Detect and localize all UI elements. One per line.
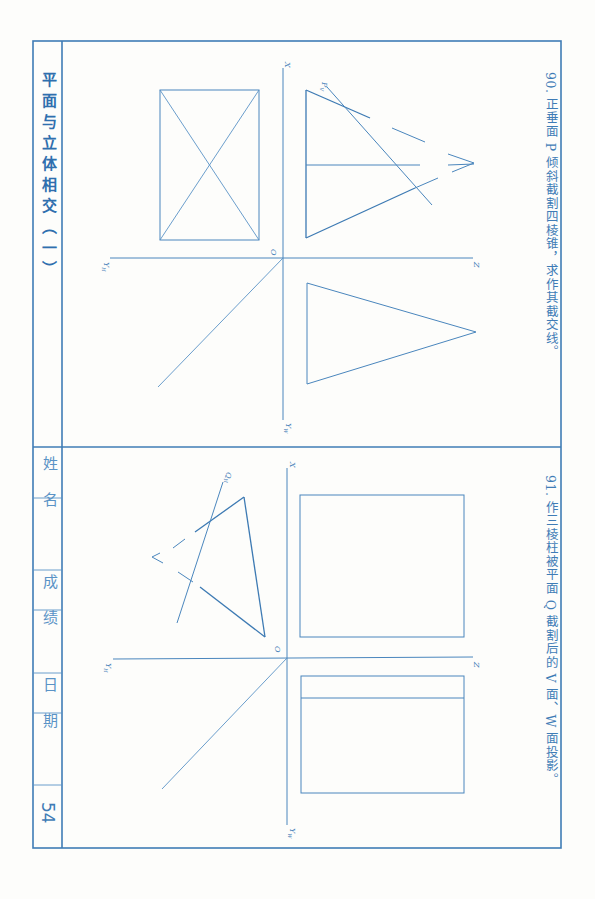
- svg-text:PV: PV: [319, 81, 329, 92]
- label-x: X: [283, 61, 292, 68]
- svg-text:YW: YW: [283, 423, 293, 434]
- svg-text:YH: YH: [103, 663, 113, 673]
- page-number: 54: [38, 802, 58, 824]
- plane-p-trace: [327, 87, 432, 205]
- label-z: Z: [472, 661, 481, 668]
- score-field[interactable]: [34, 611, 61, 672]
- problem-90-statement: 90. 正垂面 P 倾斜截割四棱锥，求作其截交线。: [541, 72, 560, 359]
- axis-45-degree: [158, 258, 283, 387]
- label-o: O: [273, 646, 282, 653]
- problem-91-drawing: X Z O YH YW QH: [103, 461, 481, 839]
- problem-91-statement: 91. 作三棱柱被平面 Q 截割后的 V 面、W 面投影。: [541, 475, 560, 786]
- sheet-title: 平面与立体相交（一）: [38, 72, 59, 282]
- label-yh: YH: [101, 262, 111, 272]
- label-qh: QH: [223, 472, 233, 484]
- svg-text:YW: YW: [287, 828, 297, 839]
- label-x: X: [288, 461, 297, 468]
- prism-w-view: [301, 676, 464, 793]
- pyramid-w-view: [307, 283, 476, 384]
- problem-90-drawing: X Z O YH YW PV: [101, 61, 481, 434]
- label-pv: PV: [319, 81, 329, 92]
- outer-border: [33, 41, 561, 848]
- label-o: O: [269, 249, 278, 256]
- label-yh: YH: [103, 663, 113, 673]
- prism-v-view: [300, 495, 464, 637]
- label-z: Z: [472, 261, 481, 268]
- label-yw: YW: [283, 423, 293, 434]
- label-yw: YW: [287, 828, 297, 839]
- axis-45-degree: [162, 658, 287, 789]
- date-field[interactable]: [34, 714, 61, 784]
- pyramid-h-view: [160, 90, 259, 240]
- plane-q-trace: [177, 482, 223, 623]
- prism-h-view: [152, 482, 265, 637]
- name-field[interactable]: [34, 499, 61, 569]
- svg-text:QH: QH: [223, 472, 233, 484]
- worksheet-page: X Z O YH YW PV: [0, 0, 595, 899]
- pyramid-v-view: [306, 87, 474, 238]
- svg-text:YH: YH: [101, 262, 111, 272]
- axis-horizontal-yh-z: [113, 657, 473, 659]
- drawing-canvas: X Z O YH YW PV: [0, 0, 595, 899]
